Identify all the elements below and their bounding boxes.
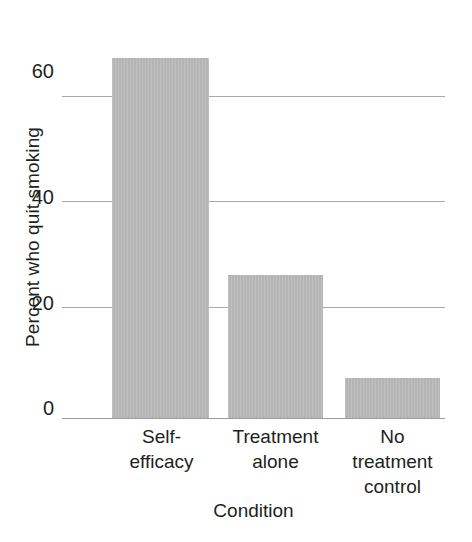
axis-baseline-0 [62,418,445,419]
bar-no-treatment-control[interactable] [345,378,440,418]
y-axis-title: Percent who quit smoking [18,77,48,397]
x-axis-title: Condition [62,500,445,522]
plot-area [62,40,445,420]
x-axis-tick-labels: Self- efficacy Treatment alone No treatm… [62,424,445,504]
bar-self-efficacy[interactable] [112,58,209,418]
x-tick-label-line-1: No [315,424,470,449]
x-tick-label-no-treatment-control: No treatment control [315,424,470,499]
bar-chart-figure: Percent who quit smoking 60 40 20 0 Self… [0,0,472,542]
x-tick-label-line-3: control [315,474,470,499]
bar-treatment-alone[interactable] [228,275,323,418]
x-tick-label-line-2: treatment [315,449,470,474]
y-tick-label-0: 0 [0,397,54,420]
